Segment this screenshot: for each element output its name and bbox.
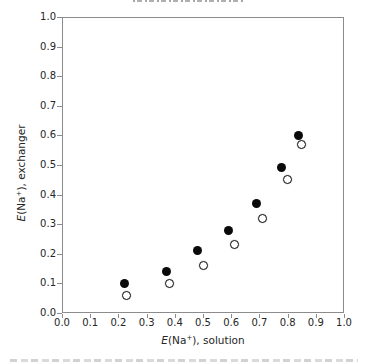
y-tick-label: 0.3	[24, 218, 56, 230]
y-tick-mark	[57, 135, 62, 136]
x-axis-title-suffix: ), solution	[192, 334, 244, 346]
y-tick-mark	[57, 106, 62, 107]
x-axis-title-symbol: E	[161, 334, 168, 346]
x-tick-label: 0.9	[301, 317, 331, 329]
y-tick-mark	[57, 195, 62, 196]
x-tick-label: 0.1	[75, 317, 105, 329]
y-axis-title-superscript: +	[15, 191, 23, 197]
clipped-text-top	[133, 0, 243, 2]
y-tick-mark	[57, 47, 62, 48]
x-tick-label: 0.4	[160, 317, 190, 329]
y-tick-label: 0.0	[24, 307, 56, 319]
y-tick-mark	[57, 254, 62, 255]
y-tick-mark	[57, 283, 62, 284]
x-tick-label: 0.7	[244, 317, 274, 329]
y-tick-label: 0.8	[24, 70, 56, 82]
y-tick-mark	[57, 17, 62, 18]
y-tick-label: 0.7	[24, 100, 56, 112]
y-tick-mark	[57, 224, 62, 225]
x-tick-label: 1.0	[329, 317, 359, 329]
y-tick-label: 1.0	[24, 11, 56, 23]
filled-circles-data-point	[224, 226, 233, 235]
y-tick-mark	[57, 313, 62, 314]
x-tick-label: 0.2	[103, 317, 133, 329]
open-circles-data-point	[230, 240, 239, 249]
x-tick-label: 0.6	[216, 317, 246, 329]
filled-circles-data-point	[120, 279, 129, 288]
y-tick-label: 0.5	[24, 159, 56, 171]
y-tick-label: 0.4	[24, 189, 56, 201]
y-tick-label: 0.2	[24, 248, 56, 260]
y-tick-mark	[57, 76, 62, 77]
x-tick-label: 0.3	[132, 317, 162, 329]
x-axis-title-text: (Na	[168, 334, 186, 346]
y-tick-label: 0.6	[24, 129, 56, 141]
x-tick-label: 0.5	[188, 317, 218, 329]
open-circles-data-point	[258, 214, 267, 223]
x-tick-label: 0.8	[273, 317, 303, 329]
scatter-chart: E(Na+), solution E(Na+), exchanger 0.00.…	[0, 0, 366, 362]
open-circles-data-point	[165, 279, 174, 288]
x-axis-title: E(Na+), solution	[161, 334, 244, 346]
open-circles-data-point	[297, 140, 306, 149]
y-tick-label: 0.1	[24, 277, 56, 289]
filled-circles-data-point	[162, 267, 171, 276]
open-circles-data-point	[199, 261, 208, 270]
filled-circles-data-point	[252, 199, 261, 208]
y-tick-mark	[57, 165, 62, 166]
y-tick-label: 0.9	[24, 41, 56, 53]
